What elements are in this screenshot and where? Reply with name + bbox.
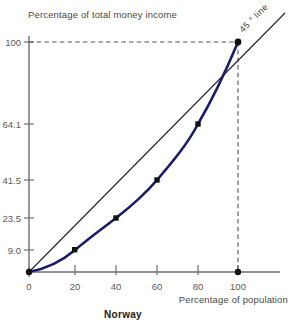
data-point-markers — [72, 121, 201, 252]
x-axis-title: Percentage of population — [179, 294, 288, 305]
x-tick-marks — [29, 265, 238, 277]
origin-point-marker — [26, 269, 32, 275]
x-axis-endpoint-marker — [235, 269, 241, 275]
equality-diagonal-line — [29, 13, 285, 272]
x-tick-label: 40 — [111, 281, 122, 292]
y-axis-title: Percentage of total money income — [28, 9, 177, 20]
endpoint-point-marker — [235, 39, 242, 46]
x-tick-label: 60 — [152, 281, 163, 292]
data-point-marker — [195, 121, 200, 126]
x-tick-label: 100 — [230, 281, 246, 292]
data-point-marker — [113, 215, 118, 220]
data-point-marker — [72, 247, 77, 252]
diagonal-line-annotation: 45 ° line — [237, 2, 270, 35]
chart-caption: Norway — [104, 309, 142, 320]
y-tick-label: 9.0 — [8, 245, 21, 256]
x-tick-label: 80 — [193, 281, 204, 292]
lorenz-curve-chart: Percentage of total money income 100 64.… — [0, 0, 292, 322]
data-point-marker — [154, 177, 159, 182]
y-tick-label: 41.5 — [3, 175, 22, 186]
x-tick-label: 0 — [26, 281, 31, 292]
y-tick-label: 100 — [5, 37, 21, 48]
x-tick-label: 20 — [70, 281, 81, 292]
y-tick-label: 23.5 — [3, 213, 22, 224]
chart-canvas: Percentage of total money income 100 64.… — [0, 0, 292, 322]
lorenz-curve-path — [29, 42, 238, 272]
y-tick-label: 64.1 — [3, 119, 22, 130]
